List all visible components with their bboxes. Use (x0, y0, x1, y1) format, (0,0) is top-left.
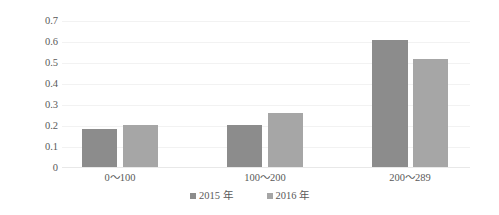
bar-series-container (62, 21, 470, 168)
y-tick-label: 0 (2, 163, 58, 174)
plot-area (62, 21, 470, 168)
bar-2016-1 (268, 113, 303, 167)
y-tick-label: 0.2 (2, 121, 58, 132)
x-tick-label: 0～100 (62, 171, 178, 185)
bar-2016-2 (413, 59, 448, 167)
y-tick-label: 0.4 (2, 79, 58, 90)
legend-square-icon (267, 193, 273, 199)
x-tick-label: 100～200 (207, 171, 323, 185)
y-tick-label: 0.1 (2, 142, 58, 153)
bar-2015-2 (372, 40, 408, 167)
bar-2015-1 (227, 125, 262, 167)
legend-item-2016[interactable]: 2016 年 (267, 191, 310, 202)
y-tick-label: 0.7 (2, 16, 58, 27)
y-axis: 0.7 0.6 0.5 0.4 0.3 0.2 0.1 0 (0, 21, 58, 168)
y-tick-label: 0.6 (2, 37, 58, 48)
bar-chart: 0.7 0.6 0.5 0.4 0.3 0.2 0.1 0 0～100 100～… (0, 0, 499, 215)
legend-square-icon (190, 193, 196, 199)
x-axis: 0～100 100～200 200～289 (62, 171, 470, 187)
x-tick-label: 200～289 (352, 171, 468, 185)
legend: 2015 年 2016 年 (0, 188, 499, 204)
bar-2016-0 (123, 125, 158, 167)
legend-item-2015[interactable]: 2015 年 (190, 191, 233, 202)
bar-2015-0 (82, 129, 117, 167)
y-tick-label: 0.5 (2, 58, 58, 69)
legend-label: 2015 年 (199, 191, 233, 202)
y-tick-label: 0.3 (2, 100, 58, 111)
legend-label: 2016 年 (276, 191, 310, 202)
